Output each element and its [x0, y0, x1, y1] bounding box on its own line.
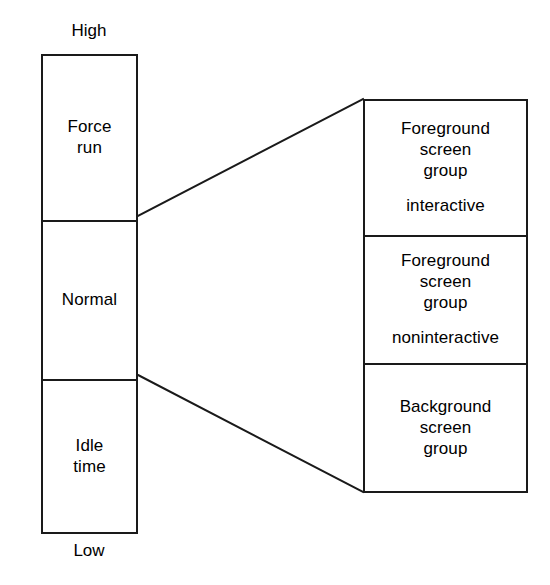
priority-cell-force-run-line-2: run [77, 138, 102, 159]
priority-cell-force-run-line-1: Force [68, 117, 112, 138]
axis-label-high: High [9, 21, 169, 41]
screen-group-foreground-noninteractive-qualifier: noninteractive [392, 328, 499, 349]
priority-column: Force run Normal Idle time [41, 54, 138, 534]
screen-group-cell-background: Background screen group [365, 363, 526, 491]
screen-group-cell-foreground-interactive: Foreground screen group interactive [365, 101, 526, 235]
screen-group-column: Foreground screen group interactive Fore… [363, 99, 528, 493]
connector-force-run-to-foreground-interactive [138, 99, 363, 216]
axis-label-low: Low [9, 541, 169, 561]
screen-group-cell-foreground-noninteractive: Foreground screen group noninteractive [365, 235, 526, 364]
priority-cell-idle-time: Idle time [43, 379, 136, 532]
screen-group-foreground-interactive-line-1: Foreground [401, 119, 490, 140]
screen-group-background-line-3: group [424, 439, 468, 460]
screen-group-foreground-noninteractive-line-1: Foreground [401, 251, 490, 272]
diagram-canvas: High Force run Normal Idle time Low Fore… [0, 0, 550, 585]
connector-idle-time-to-background [138, 375, 363, 492]
priority-cell-force-run: Force run [43, 56, 136, 220]
screen-group-background-line-1: Background [400, 397, 492, 418]
screen-group-foreground-interactive-qualifier: interactive [406, 196, 485, 217]
priority-cell-normal: Normal [43, 220, 136, 379]
screen-group-foreground-noninteractive-line-2: screen [420, 272, 472, 293]
screen-group-background-line-2: screen [420, 418, 472, 439]
screen-group-foreground-interactive-line-3: group [424, 161, 468, 182]
screen-group-foreground-interactive-line-2: screen [420, 140, 472, 161]
priority-cell-idle-time-line-2: time [73, 457, 106, 478]
priority-cell-normal-line-1: Normal [62, 290, 117, 311]
screen-group-foreground-noninteractive-line-3: group [424, 293, 468, 314]
priority-cell-idle-time-line-1: Idle [76, 436, 104, 457]
